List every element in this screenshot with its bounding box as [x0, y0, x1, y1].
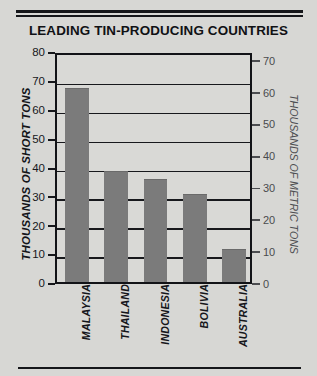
y-tick-left: 50: [32, 133, 55, 147]
y-axis-right-title: THOUSANDS OF METRIC TONS: [288, 69, 300, 279]
category-label: AUSTRALIA: [237, 284, 249, 347]
category-label: MALAYSIA: [80, 284, 92, 340]
y-tick-left-mark: [48, 196, 55, 198]
y-tick-left: 0: [39, 277, 55, 291]
category-label: INDONESIA: [159, 284, 171, 345]
bar: [104, 171, 128, 282]
y-tick-left: 80: [32, 46, 55, 60]
bar: [183, 194, 207, 282]
chart-page: LEADING TIN-PRODUCING COUNTRIES 01020304…: [0, 0, 317, 376]
plot-area: [55, 53, 252, 284]
y-tick-left: 40: [32, 162, 55, 176]
y-tick-right: 60: [252, 86, 275, 100]
y-tick-right-mark: [252, 92, 260, 94]
y-tick-left-mark: [48, 139, 55, 141]
y-tick-right: 10: [252, 245, 275, 259]
y-tick-right-mark: [252, 124, 260, 126]
y-tick-right-mark: [252, 60, 260, 62]
y-tick-right-label: 30: [263, 183, 275, 194]
y-tick-left-mark: [48, 168, 55, 170]
y-tick-left: 70: [32, 75, 55, 89]
y-tick-left-label: 0: [39, 278, 45, 290]
y-tick-left-label: 10: [32, 249, 45, 261]
y-tick-right: 40: [252, 150, 275, 164]
y-axis-left-title: THOUSANDS OF SHORT TONS: [20, 69, 32, 279]
y-tick-right-mark: [252, 283, 260, 285]
y-tick-left-label: 70: [32, 76, 45, 88]
y-tick-left-label: 40: [32, 163, 45, 175]
bar: [144, 179, 168, 283]
y-tick-left: 60: [32, 104, 55, 118]
y-tick-right-label: 10: [263, 247, 275, 258]
bar: [65, 88, 89, 282]
y-tick-left-mark: [48, 254, 55, 256]
y-tick-right: 30: [252, 182, 275, 196]
y-tick-right-label: 20: [263, 215, 275, 226]
bottom-rule: [18, 367, 301, 369]
y-tick-right-label: 70: [263, 56, 275, 67]
y-axis-right: 010203040506070: [252, 53, 292, 284]
y-tick-right-mark: [252, 156, 260, 158]
y-tick-left-label: 30: [32, 192, 45, 204]
y-tick-left-label: 50: [32, 134, 45, 146]
chart-area: 01020304050607080 010203040506070 THOUSA…: [0, 0, 317, 376]
y-tick-left: 30: [32, 190, 55, 204]
y-tick-right-label: 50: [263, 119, 275, 130]
y-tick-left-mark: [48, 52, 55, 54]
y-tick-left-label: 20: [32, 221, 45, 233]
y-tick-left-mark: [48, 81, 55, 83]
y-tick-left-label: 80: [32, 47, 45, 59]
y-tick-right: 20: [252, 213, 275, 227]
y-tick-right-mark: [252, 188, 260, 190]
y-tick-right-label: 0: [263, 279, 269, 290]
y-tick-left-mark: [48, 225, 55, 227]
y-tick-right-mark: [252, 251, 260, 253]
y-tick-left: 10: [32, 248, 55, 262]
y-tick-right: 70: [252, 54, 275, 68]
category-labels: MALAYSIATHAILANDINDONESIABOLIVIAAUSTRALI…: [55, 284, 252, 364]
category-label: THAILAND: [119, 284, 131, 340]
y-tick-left: 20: [32, 219, 55, 233]
y-tick-right-label: 40: [263, 151, 275, 162]
y-tick-left-mark: [48, 110, 55, 112]
category-label: BOLIVIA: [198, 284, 210, 328]
y-tick-right-label: 60: [263, 88, 275, 99]
y-tick-right: 50: [252, 118, 275, 132]
y-tick-right-mark: [252, 219, 260, 221]
bar-series: [57, 55, 250, 282]
y-tick-left-label: 60: [32, 105, 45, 117]
bar: [222, 249, 246, 282]
y-tick-right: 0: [252, 277, 269, 291]
y-tick-left-mark: [48, 283, 55, 285]
